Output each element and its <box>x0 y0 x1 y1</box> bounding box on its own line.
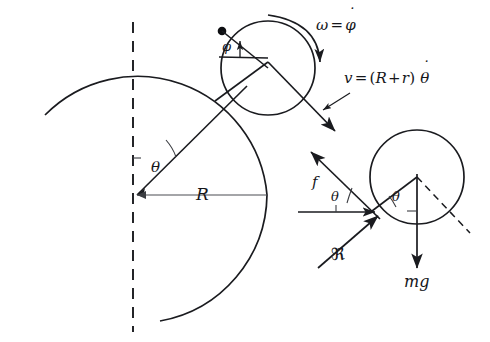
velocity-paren-close: ) <box>409 69 415 87</box>
radius-line-to-contact <box>137 86 247 195</box>
friction-force-label: f <box>312 175 318 190</box>
omega-equals-sign: = <box>328 16 345 34</box>
velocity-plus-sign: + <box>387 69 402 87</box>
sphere-arc <box>45 76 267 321</box>
velocity-symbol: v <box>344 69 353 87</box>
theta-label-main: θ <box>151 160 160 175</box>
velocity-equals-sign: = <box>353 69 370 87</box>
velocity-arrow <box>268 62 335 131</box>
theta-label-weight: θ <box>392 190 400 203</box>
omega-equation-label: ω=φ <box>316 18 356 33</box>
phi-horizontal-reference <box>219 57 268 58</box>
normal-force-label: ℜ <box>331 246 345 263</box>
velocity-equation-label: v=(R+r)θ <box>344 71 429 86</box>
theta-angle-arc-leader <box>166 140 176 157</box>
phi-dot-symbol: φ <box>345 18 356 33</box>
radius-R-label: R <box>196 186 209 203</box>
fbd-dashed-extension-line <box>417 177 470 233</box>
weight-force-label: mg <box>404 274 429 290</box>
friction-force-arrow <box>311 152 380 219</box>
physics-diagram-figure: θ R φ ω=φ v=(R+r)θ f θ ℜ θ mg <box>0 0 490 342</box>
phi-label: φ <box>222 40 231 53</box>
velocity-label-leader <box>323 93 350 110</box>
normal-force-arrow <box>318 216 378 268</box>
theta-dot-symbol: θ <box>420 71 429 86</box>
omega-symbol: ω <box>316 16 328 34</box>
velocity-R-symbol: R <box>376 69 388 87</box>
theta-label-friction: θ <box>331 190 339 203</box>
